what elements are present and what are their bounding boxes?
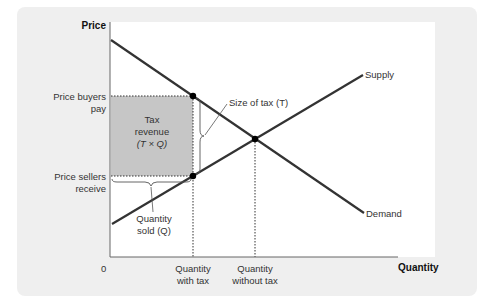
qty-with-tax-line1: Quantity [163, 263, 223, 275]
qty-without-tax-label: Quantity without tax [222, 263, 288, 287]
tax-revenue-line2: revenue [112, 126, 192, 138]
qty-with-tax-line2: with tax [163, 275, 223, 287]
price-sellers-line1: Price sellers [30, 171, 106, 183]
tax-revenue-label: Tax revenue (T × Q) [112, 114, 192, 150]
price-sellers-line2: receive [30, 183, 106, 195]
supply-label: Supply [365, 69, 394, 81]
qty-with-tax-label: Quantity with tax [163, 263, 223, 287]
x-axis-label: Quantity [398, 262, 439, 274]
origin-label: 0 [101, 263, 106, 275]
sellers-price-point [190, 173, 196, 179]
quantity-sold-label: Quantity sold (Q) [128, 213, 180, 237]
qty-without-tax-line1: Quantity [222, 263, 288, 275]
price-sellers-label: Price sellers receive [30, 171, 106, 195]
qty-without-tax-line2: without tax [222, 275, 288, 287]
buyers-price-point [190, 93, 196, 99]
size-of-tax-label: Size of tax (T) [229, 97, 288, 109]
tax-size-leader [205, 104, 227, 135]
quantity-sold-line2: sold (Q) [128, 225, 180, 237]
price-buyers-label: Price buyers pay [30, 91, 106, 115]
price-buyers-line2: pay [30, 103, 106, 115]
y-axis-label: Price [60, 20, 106, 32]
quantity-sold-line1: Quantity [128, 213, 180, 225]
price-buyers-line1: Price buyers [30, 91, 106, 103]
tax-revenue-line3: (T × Q) [112, 138, 192, 150]
tax-revenue-line1: Tax [112, 114, 192, 126]
tax-size-brace [196, 98, 204, 174]
demand-label: Demand [366, 208, 402, 220]
equilibrium-point [252, 136, 258, 142]
